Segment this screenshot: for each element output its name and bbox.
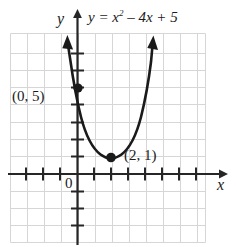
parabola-figure: y = x2 – 4x + 5 y x 0 (0, 5) (2, 1) — [0, 0, 237, 247]
point-y-intercept — [73, 83, 82, 92]
origin-label: 0 — [65, 176, 73, 191]
equation-label: y = x2 – 4x + 5 — [88, 10, 178, 25]
graph-canvas — [0, 0, 237, 247]
point-vertex — [106, 153, 116, 163]
point-label-vertex: (2, 1) — [124, 148, 157, 163]
point-label-y-intercept: (0, 5) — [12, 89, 45, 104]
y-axis-label: y — [57, 11, 64, 27]
equation-tail: – 4x + 5 — [123, 9, 177, 25]
grid-lines — [11, 34, 206, 243]
x-axis-label: x — [217, 177, 224, 193]
y-axis — [73, 9, 82, 245]
